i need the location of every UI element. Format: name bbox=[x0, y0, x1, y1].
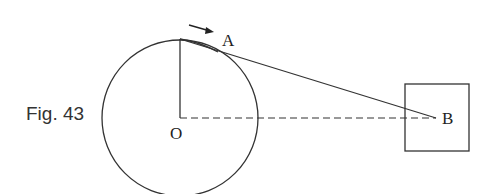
label-o: O bbox=[170, 124, 182, 143]
string-line bbox=[180, 39, 436, 118]
direction-arrow-icon bbox=[189, 25, 214, 34]
diagram-canvas: A B O bbox=[0, 0, 487, 194]
label-a: A bbox=[222, 31, 235, 50]
label-b: B bbox=[442, 109, 453, 128]
